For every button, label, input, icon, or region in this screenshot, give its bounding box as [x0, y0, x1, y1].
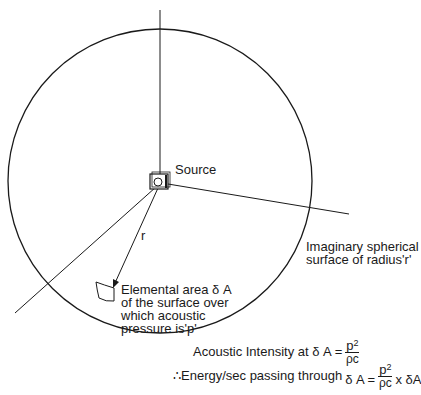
energy-denominator: ρc [379, 377, 392, 389]
elemental-area-patch [96, 282, 114, 301]
energy-lhs: δ A = [345, 372, 375, 387]
energy-exponent: 2 [386, 362, 391, 372]
surface-label-line2: surface of radius'r' [306, 253, 411, 266]
energy-prefix: ∴Energy/sec passing through [173, 368, 342, 383]
radius-label: r [141, 229, 145, 242]
source-label: Source [175, 163, 216, 176]
acoustic-intensity-diagram: Source r Imaginary spherical surface of … [0, 0, 421, 395]
radius-arrow-line [115, 188, 158, 283]
diagram-graphics [0, 0, 421, 395]
energy-suffix: x δA [395, 372, 421, 387]
energy-equation: ∴Energy/sec passing through δ A = p2 ρc … [173, 361, 421, 389]
intensity-exponent: 2 [353, 338, 358, 348]
element-label-line4: pressure is'p' [121, 322, 197, 335]
intensity-prefix: Acoustic Intensity at δ A = [193, 344, 342, 359]
right-axis-line [168, 184, 349, 214]
source-icon [150, 172, 170, 189]
energy-fraction: p2 ρc [378, 361, 392, 389]
